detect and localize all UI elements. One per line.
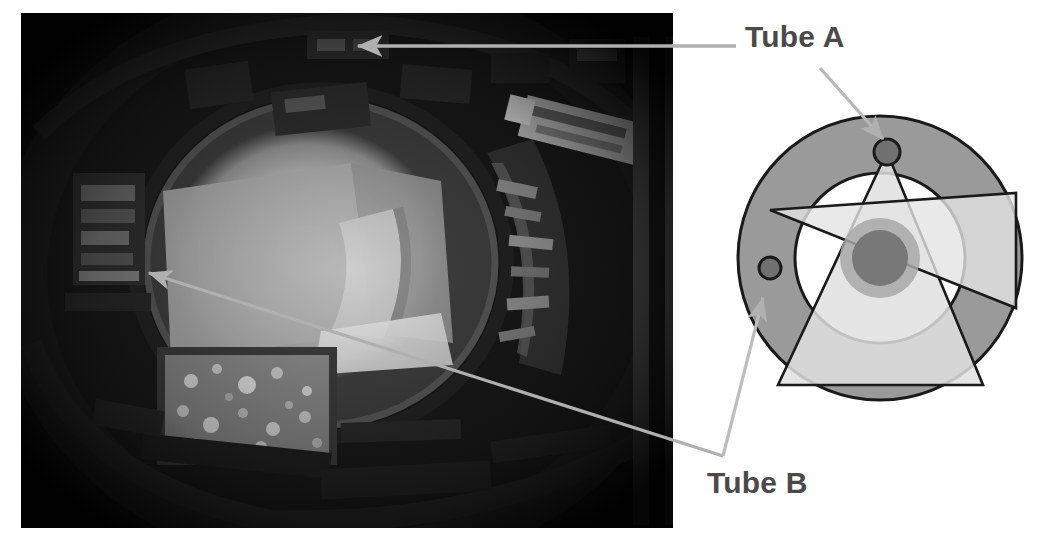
figure-canvas: Tube A Tube B xyxy=(0,0,1058,536)
photo-raster xyxy=(21,13,673,528)
schematic-body xyxy=(738,116,1022,400)
tube-a-label: Tube A xyxy=(745,20,845,54)
tube-b-label: Tube B xyxy=(707,466,808,500)
tube-a-source-dot xyxy=(874,139,900,165)
tube-b-source-dot xyxy=(759,257,781,279)
core-center xyxy=(852,230,908,286)
tube-cross-section-schematic xyxy=(700,100,1045,430)
fisheye-interior-photograph xyxy=(21,13,673,528)
